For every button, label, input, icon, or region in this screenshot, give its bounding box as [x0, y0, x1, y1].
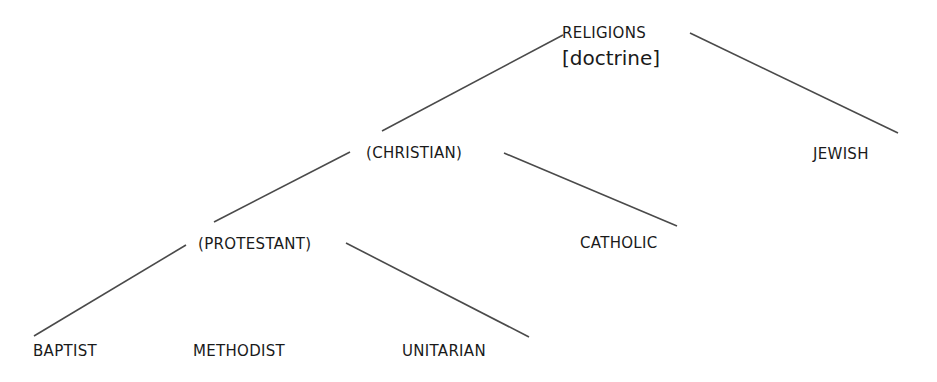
node-catholic: CATHOLIC — [580, 236, 657, 251]
edge-christian-protestant — [214, 152, 350, 222]
tree-edges — [0, 0, 937, 382]
edge-protestant-unitarian — [346, 243, 529, 337]
node-unitarian: UNITARIAN — [402, 344, 486, 359]
node-jewish: JEWISH — [813, 147, 869, 162]
edge-christian-catholic — [504, 153, 677, 226]
edge-religions-christian — [382, 35, 563, 131]
node-methodist: METHODIST — [193, 344, 285, 359]
annotation-doctrine: [doctrine] — [562, 48, 660, 68]
edge-protestant-baptist — [34, 245, 186, 336]
edge-religions-jewish — [690, 33, 898, 133]
node-baptist: BAPTIST — [33, 344, 97, 359]
node-religions: RELIGIONS — [562, 26, 646, 41]
node-christian: (CHRISTIAN) — [366, 146, 462, 161]
node-protestant: (PROTESTANT) — [198, 237, 311, 252]
